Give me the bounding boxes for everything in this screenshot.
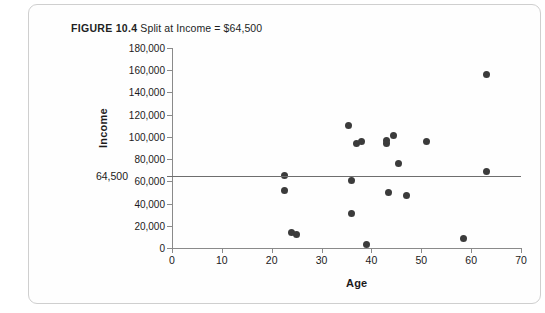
x-tick [222, 248, 223, 253]
income-split-tick [167, 176, 172, 177]
y-tick [167, 48, 172, 49]
data-point [293, 231, 300, 238]
x-tick [272, 248, 273, 253]
income-split-label: 64,500 [96, 170, 128, 182]
data-point [363, 241, 370, 248]
y-tick [167, 137, 172, 138]
y-tick-label: 0 [159, 243, 165, 254]
y-tick [167, 70, 172, 71]
x-tick-label: 40 [366, 254, 378, 266]
data-point [385, 189, 392, 196]
x-tick-label: 0 [169, 254, 175, 266]
income-split-line [172, 176, 521, 177]
y-tick-label: 160,000 [129, 65, 165, 76]
data-point [460, 235, 467, 242]
data-point [348, 210, 355, 217]
figure-card: FIGURE 10.4 Split at Income = $64,500 In… [28, 4, 541, 304]
data-point [348, 177, 355, 184]
figure-caption-text: Split at Income = $64,500 [140, 22, 262, 34]
y-axis-title: Income [97, 108, 109, 148]
y-tick-label: 40,000 [134, 198, 165, 209]
x-tick [421, 248, 422, 253]
x-tick [322, 248, 323, 253]
y-tick [167, 115, 172, 116]
y-tick-label: 180,000 [129, 43, 165, 54]
data-point [345, 122, 352, 129]
x-tick-label: 10 [216, 254, 228, 266]
y-tick [167, 204, 172, 205]
data-point [281, 172, 288, 179]
x-tick-label: 60 [465, 254, 477, 266]
y-tick-label: 100,000 [129, 131, 165, 142]
figure-label: FIGURE 10.4 [71, 22, 137, 34]
x-axis-title: Age [346, 277, 367, 289]
figure-caption: FIGURE 10.4 Split at Income = $64,500 [71, 22, 262, 34]
y-axis-line [172, 48, 173, 248]
x-tick-label: 20 [266, 254, 278, 266]
scatter-plot-area: 020,00040,00060,00080,000100,000120,0001… [172, 48, 521, 248]
x-tick [371, 248, 372, 253]
data-point [390, 132, 397, 139]
x-tick-label: 50 [415, 254, 427, 266]
data-point [281, 187, 288, 194]
y-tick-label: 140,000 [129, 87, 165, 98]
y-tick [167, 159, 172, 160]
y-tick-label: 60,000 [134, 176, 165, 187]
data-point [358, 138, 365, 145]
data-point [483, 71, 490, 78]
x-tick [471, 248, 472, 253]
y-tick [167, 92, 172, 93]
data-point [483, 168, 490, 175]
data-point [395, 160, 402, 167]
data-point [383, 137, 390, 144]
y-tick-label: 80,000 [134, 154, 165, 165]
data-point [423, 138, 430, 145]
x-tick [172, 248, 173, 253]
y-tick-label: 20,000 [134, 220, 165, 231]
y-tick [167, 181, 172, 182]
x-axis-line [172, 248, 521, 249]
data-point [403, 192, 410, 199]
x-tick-label: 30 [316, 254, 328, 266]
x-tick [521, 248, 522, 253]
y-tick [167, 226, 172, 227]
x-tick-label: 70 [515, 254, 527, 266]
y-tick-label: 120,000 [129, 109, 165, 120]
